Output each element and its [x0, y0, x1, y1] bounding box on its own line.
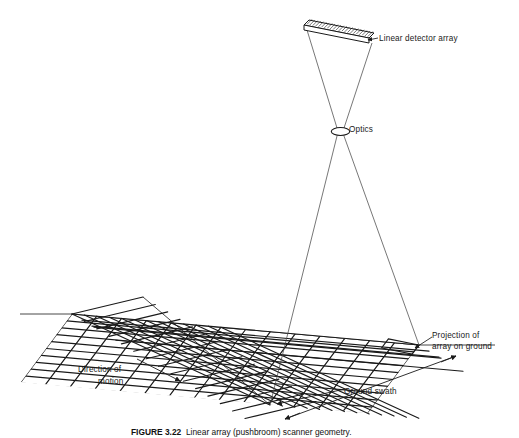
projection-leader: [415, 337, 432, 348]
figure-caption-label: FIGURE 3.22: [131, 427, 181, 437]
label-optics: Optics: [349, 124, 373, 135]
label-direction-of-motion-line2: motion: [98, 376, 123, 387]
label-projection-of-array-line2: array on ground: [432, 341, 492, 352]
label-projection-of-array-line1: Projection of: [432, 330, 479, 341]
figure-root: Linear detector array Optics Projection …: [0, 0, 519, 438]
figure-caption-text: Linear array (pushbroom) scanner geometr…: [186, 427, 352, 437]
label-linear-detector-array: Linear detector array: [379, 33, 458, 44]
label-direction-of-motion-line1: Direction of: [78, 364, 121, 375]
optics-lens: [331, 128, 349, 136]
linear-detector-array: [304, 19, 374, 43]
label-ground-swath: Ground swath: [344, 386, 397, 397]
figure-caption: FIGURE 3.22 Linear array (pushbroom) sca…: [131, 427, 352, 437]
